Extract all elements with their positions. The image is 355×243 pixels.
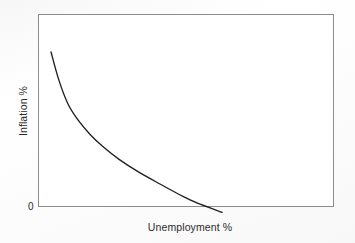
y-axis-label: Inflation % [17,69,29,153]
origin-tick-label: 0 [28,201,34,212]
x-axis-label: Unemployment % [100,221,280,233]
phillips-curve-line [51,52,222,212]
phillips-curve-figure: Inflation % Unemployment % 0 [0,0,355,243]
curve-layer [0,0,355,243]
